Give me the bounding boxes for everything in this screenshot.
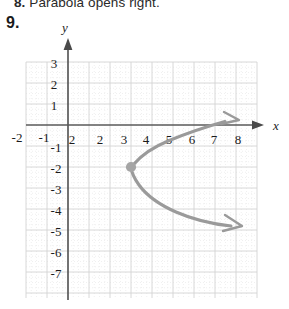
grid-minor — [26, 62, 257, 298]
x-axis-label: x — [272, 118, 279, 133]
y-tick-3: 3 — [51, 56, 58, 71]
arrowhead-lower-right — [223, 215, 242, 231]
y-tick-neg4: -4 — [51, 203, 62, 218]
y-tick-neg2: -2 — [51, 161, 62, 176]
graph-svg: y x 3 2 1 -1 -2 -3 -4 -5 -6 -7 -2 -1 2 2… — [0, 0, 289, 309]
y-tick-1: 1 — [51, 98, 58, 113]
y-tick-neg3: -3 — [51, 182, 62, 197]
y-tick-2: 2 — [51, 77, 58, 92]
x-tick-neg2: -2 — [12, 130, 23, 145]
axis-arrowheads — [64, 38, 264, 130]
y-tick-neg1: -1 — [51, 140, 62, 155]
y-tick-neg6: -6 — [51, 245, 62, 260]
x-axis-arrowhead — [252, 121, 264, 130]
curve-arrowheads — [221, 112, 242, 231]
x-tick-neg1: -1 — [39, 130, 50, 145]
y-tick-neg5: -5 — [51, 224, 62, 239]
y-axis-label: y — [60, 20, 68, 35]
y-tick-neg7: -7 — [51, 266, 62, 281]
parabola-lower-branch — [131, 167, 231, 226]
coordinate-graph: y x 3 2 1 -1 -2 -3 -4 -5 -6 -7 -2 -1 2 2… — [0, 0, 289, 309]
x-tick-2b: 2 — [97, 132, 104, 147]
x-tick-2a: 2 — [69, 132, 76, 147]
y-axis-arrowhead — [64, 38, 73, 50]
x-tick-8: 8 — [235, 132, 242, 147]
vertex-dot — [126, 162, 136, 172]
x-tick-4: 4 — [143, 132, 150, 147]
worksheet-page: 8. Parabola opens right. 9. — [0, 0, 289, 309]
x-tick-7: 7 — [211, 132, 218, 147]
x-tick-3: 3 — [121, 132, 128, 147]
